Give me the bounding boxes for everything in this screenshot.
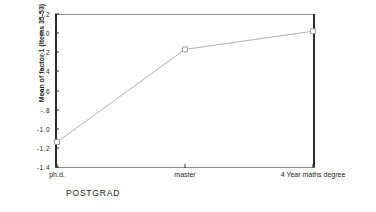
data-series-layer — [55, 14, 315, 168]
x-axis-tick-label: master — [174, 171, 195, 178]
y-axis-title: Mean of factor 1 (Items 35-53) — [38, 0, 45, 173]
data-point-marker — [183, 47, 188, 52]
plot-area: .20.0-.2-.4-.6-.8-1.0-1.2-1.4 ph.d.maste… — [55, 14, 315, 168]
y-axis-tick-label: .2 — [44, 11, 55, 18]
data-point-marker — [55, 140, 60, 145]
x-axis-title: POSTGRAD — [66, 188, 120, 198]
x-axis-tick-label: 4 Year maths degree — [281, 171, 346, 178]
line-chart: .20.0-.2-.4-.6-.8-1.0-1.2-1.4 ph.d.maste… — [0, 0, 376, 212]
x-axis-tick-label: ph.d. — [49, 171, 65, 178]
data-point-marker — [311, 29, 316, 34]
